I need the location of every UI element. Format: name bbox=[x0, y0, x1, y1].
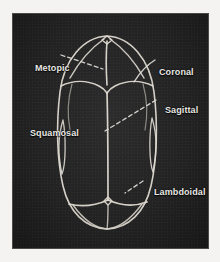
label-sagittal: Sagittal bbox=[165, 106, 198, 115]
label-squamosal: Squamosal bbox=[30, 129, 79, 138]
label-metopic: Metopic bbox=[35, 64, 70, 73]
squamosal-suture-right-path bbox=[150, 118, 156, 172]
sagittal-leader-line bbox=[105, 100, 156, 131]
metopic-suture-path bbox=[106, 41, 107, 85]
coronal-suture-right-path bbox=[107, 82, 153, 94]
label-coronal: Coronal bbox=[159, 68, 194, 77]
parietal-left-contour-path bbox=[68, 84, 72, 130]
frontal-bone-right-border-path bbox=[110, 39, 144, 78]
frontal-bone-left-border-path bbox=[70, 39, 104, 78]
lambdoid-suture-left-path bbox=[69, 200, 108, 206]
diagram-panel: Metopic Coronal Sagittal Squamosal Lambd… bbox=[13, 14, 208, 248]
coronal-suture-left-path bbox=[61, 82, 107, 94]
label-lambdoidal: Lambdoidal bbox=[154, 188, 206, 197]
figure-container: Metopic Coronal Sagittal Squamosal Lambd… bbox=[0, 0, 220, 262]
lambdoidal-leader-line bbox=[125, 181, 143, 193]
sagittal-suture-path bbox=[107, 93, 108, 200]
occipital-midline-path bbox=[107, 205, 108, 229]
